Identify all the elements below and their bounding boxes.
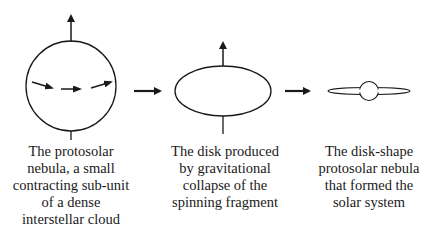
caption-stage-3: The disk-shape protosolar nebula that fo…	[305, 143, 433, 211]
collapsed-disk-ellipse	[175, 66, 271, 116]
protosolar-nebula-sphere	[26, 41, 116, 131]
stage-1-sphere	[26, 16, 116, 140]
central-protosun	[360, 82, 379, 101]
caption-stage-2: The disk produced by gravitational colla…	[160, 143, 290, 211]
spin-arrow-icon	[91, 82, 111, 88]
caption-stage-1: The protosolar nebula, a small contracti…	[6, 143, 136, 228]
spin-arrow-icon	[32, 82, 52, 88]
stage-2-disk	[175, 43, 271, 134]
stage-3-disk-shape-nebula	[328, 82, 410, 101]
